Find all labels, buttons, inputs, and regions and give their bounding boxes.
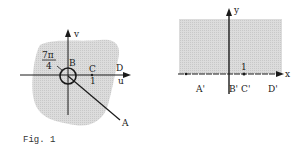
point-A-prime (185, 73, 188, 76)
point-label-D-prime: D' (268, 84, 278, 94)
axis-label-y: y (233, 5, 240, 15)
figure-caption: Fig. 1 (23, 135, 55, 145)
axis-label-x: x (285, 69, 290, 79)
point-label-C-prime: C' (241, 84, 250, 94)
v-axis-arrow-icon (65, 29, 71, 37)
u-axis-arrow-icon (123, 72, 131, 78)
axis-label-u: u (118, 76, 124, 86)
point-label-B-prime: B' (229, 84, 238, 94)
left-plane: v u 7π 4 B C 1 D A (20, 29, 131, 128)
point-label-B: B (69, 58, 76, 68)
point-label-A: A (121, 118, 129, 128)
angle-denominator: 4 (46, 61, 52, 71)
point-label-A-prime: A' (195, 84, 205, 94)
tick-label-1: 1 (90, 76, 96, 86)
figure-canvas: v u 7π 4 B C 1 D A y x 1 A' B' C' D' Fig… (0, 0, 295, 149)
shaded-half-plane (179, 19, 282, 74)
y-axis-arrow-icon (226, 8, 232, 16)
angle-numerator: 7π (42, 50, 54, 60)
point-label-D: D (116, 63, 123, 73)
point-label-C: C (89, 64, 96, 74)
axis-label-v: v (73, 29, 80, 39)
point-C-prime (243, 73, 246, 76)
tick-label-1: 1 (241, 62, 247, 72)
right-plane: y x 1 A' B' C' D' (178, 5, 290, 94)
